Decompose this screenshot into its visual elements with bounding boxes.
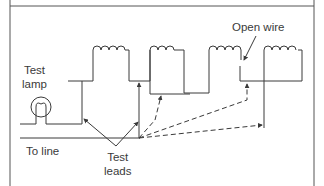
label-open-wire: Open wire bbox=[232, 20, 284, 34]
open-wire-pointer bbox=[244, 36, 256, 60]
coil-3 bbox=[209, 46, 264, 93]
coil-2 bbox=[150, 46, 209, 93]
label-test-lamp: Test lamp bbox=[22, 63, 47, 91]
label-test-leads: Test leads bbox=[104, 150, 132, 178]
label-to-line: To line bbox=[26, 144, 59, 158]
coil-1 bbox=[68, 46, 150, 81]
test-lead-solid-1 bbox=[84, 119, 116, 146]
dashed-test-leads bbox=[139, 84, 262, 138]
coil-4 bbox=[264, 46, 302, 128]
test-lead-solid-2 bbox=[116, 122, 138, 146]
